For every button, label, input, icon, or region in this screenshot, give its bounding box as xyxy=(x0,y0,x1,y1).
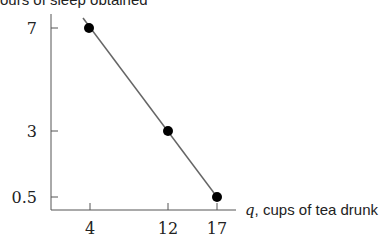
y-tick-label: 3 xyxy=(27,122,37,141)
x-axis-label-text: , cups of tea drunk xyxy=(255,201,378,218)
data-point xyxy=(84,23,94,33)
x-tick-label: 17 xyxy=(207,219,227,238)
y-tick-label: 0.5 xyxy=(12,188,37,207)
x-axis-label: q, cups of tea drunk xyxy=(245,201,378,219)
data-line xyxy=(83,18,217,197)
data-point xyxy=(212,192,222,202)
x-tick-label: 4 xyxy=(85,219,95,238)
x-tick-label: 12 xyxy=(158,219,178,238)
y-tick-label: 7 xyxy=(27,19,37,38)
data-point xyxy=(163,126,173,136)
x-variable: q xyxy=(245,201,255,219)
